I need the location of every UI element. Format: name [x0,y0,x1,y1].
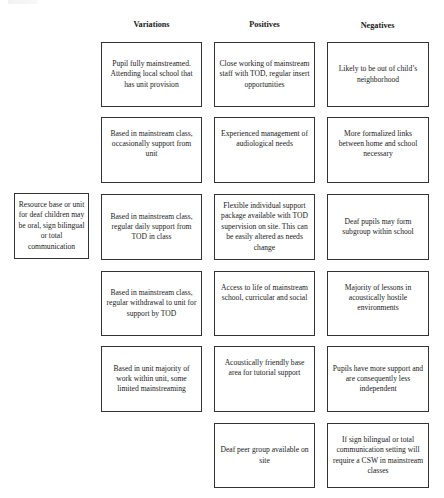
scan-artifact [8,0,38,4]
variation-text: Based in mainstream class, regular withd… [106,288,197,319]
header-negatives: Negatives [327,21,428,31]
negative-box: Pupils have more support and are consequ… [327,346,429,412]
positive-box: Close working of mainstream staff with T… [214,42,315,107]
positive-box: Acoustically friendly base area for tuto… [214,346,315,412]
positive-box: Flexible individual support package avai… [214,194,315,260]
variation-text: Based in mainstream class, occasionally … [106,129,197,160]
negative-text: If sign bilingual or total communication… [332,435,424,476]
variation-text: Based in mainstream class, regular daily… [106,212,197,243]
negative-box: More formalized links between home and s… [327,117,429,183]
source-box-text: Resource base or unit for deaf children … [17,200,86,252]
positive-box: Access to life of mainstream school, cur… [214,271,315,336]
positive-text: Deaf peer group available on site [219,445,310,465]
header-positives: Positives [214,20,315,30]
variation-box: Based in mainstream class, regular withd… [101,271,202,336]
negative-text: Pupils have more support and are consequ… [332,364,424,395]
variation-box: Based in mainstream class, occasionally … [101,117,202,183]
positive-text: Flexible individual support package avai… [218,201,311,253]
negative-box: Majority of lessons in acoustically host… [327,271,429,336]
source-box: Resource base or unit for deaf children … [14,193,89,259]
negative-box: If sign bilingual or total communication… [327,423,429,488]
variation-box: Pupil fully mainstreamed. Attending loca… [101,42,202,107]
negative-box: Deaf pupils may form subgroup within sch… [327,194,429,260]
variation-box: Based in unit majority of work within un… [101,346,202,412]
positive-text: Access to life of mainstream school, cur… [219,283,310,303]
negative-text: Deaf pupils may form subgroup within sch… [332,217,424,237]
positive-box: Deaf peer group available on site [214,423,315,488]
variation-text: Based in unit majority of work within un… [106,364,197,395]
variation-box: Based in mainstream class, regular daily… [101,194,202,260]
header-variations: Variations [101,20,202,30]
positive-text: Acoustically friendly base area for tuto… [219,358,310,378]
positive-box: Experienced management of audiological n… [214,117,315,183]
negative-text: Majority of lessons in acoustically host… [332,283,424,314]
variation-text: Pupil fully mainstreamed. Attending loca… [106,59,197,90]
negative-text: Likely to be out of child’s neighborhood [332,64,424,84]
positive-text: Close working of mainstream staff with T… [219,59,310,90]
negative-text: More formalized links between home and s… [332,129,424,160]
positive-text: Experienced management of audiological n… [219,129,310,149]
negative-box: Likely to be out of child’s neighborhood [327,42,429,107]
